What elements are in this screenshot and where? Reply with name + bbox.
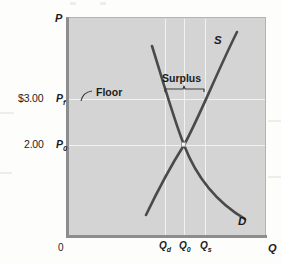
- gridline-equilibrium-quantity: [184, 19, 185, 235]
- x-tick-equilibrium-quantity: Q0: [179, 241, 191, 253]
- gridline-equilibrium-price: [69, 145, 265, 146]
- y-tick-symbol-equilibrium-base: P: [56, 138, 63, 150]
- plot-area-right-edge: [265, 17, 266, 236]
- y-tick-symbol-floor: Pf: [56, 93, 66, 107]
- plot-area-top-edge: [67, 17, 266, 18]
- surplus-annotation-label: Surplus: [162, 73, 201, 84]
- y-tick-money-floor: $3.00: [18, 93, 43, 104]
- x-tick-q0-base: Q: [179, 240, 187, 251]
- scan-artifact: [70, 2, 76, 5]
- x-tick-quantity-supplied: Qs: [200, 241, 212, 253]
- scan-artifact: [268, 176, 281, 178]
- y-tick-symbol-equilibrium-sub: 0: [63, 144, 67, 153]
- gridline-quantity-demanded: [165, 19, 166, 235]
- y-tick-symbol-floor-sub: f: [63, 98, 66, 107]
- gridline-price-floor: [69, 99, 265, 100]
- floor-annotation-label: Floor: [96, 87, 122, 98]
- scan-artifact: [0, 172, 12, 174]
- scan-artifact: [268, 120, 281, 122]
- x-tick-qs-sub: s: [208, 246, 212, 253]
- y-tick-symbol-equilibrium: P0: [56, 139, 67, 153]
- y-tick-symbol-floor-base: P: [56, 92, 63, 104]
- x-tick-quantity-demanded: Qd: [159, 241, 171, 253]
- equilibrium-marker: [181, 142, 186, 147]
- x-tick-qs-base: Q: [200, 240, 208, 251]
- scan-artifact: [0, 112, 14, 114]
- x-tick-qd-sub: d: [167, 246, 171, 253]
- x-tick-qd-base: Q: [159, 240, 167, 251]
- origin-label: 0: [58, 243, 64, 253]
- supply-demand-figure: P Q 0 $3.00 Pf 2.00 P0 Qd Q0 Qs S D Floo…: [0, 0, 281, 264]
- x-axis-line: [66, 235, 267, 238]
- y-axis-line: [66, 17, 69, 238]
- demand-curve-label: D: [238, 216, 246, 228]
- x-tick-q0-sub: 0: [187, 246, 191, 253]
- supply-curve-label: S: [214, 35, 222, 47]
- plot-area: [67, 18, 266, 235]
- y-axis-label: P: [55, 13, 62, 24]
- scan-artifact: [100, 2, 106, 5]
- y-tick-money-equilibrium: 2.00: [24, 139, 44, 150]
- gridline-quantity-supplied: [205, 19, 206, 235]
- x-axis-label: Q: [268, 243, 277, 254]
